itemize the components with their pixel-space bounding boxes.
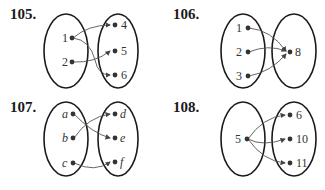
svg-text:b: b [62,131,68,145]
svg-text:2: 2 [62,55,68,69]
svg-text:c: c [62,156,68,170]
domain-ellipse [44,14,88,88]
svg-text:6: 6 [121,68,127,82]
svg-text:d: d [120,107,127,121]
svg-text:5: 5 [121,44,127,58]
svg-text:4: 4 [121,18,127,32]
diagram-106: 106. 1 2 3 8 [163,0,325,95]
mapping-diagram: 1 2 4 5 6 [0,0,162,95]
svg-text:a: a [62,107,68,121]
mapping-diagram: 5 6 10 11 [163,95,325,190]
diagram-105: 105. 1 2 4 5 6 [0,0,162,95]
mapping-diagram: 1 2 3 8 [163,0,325,95]
diagram-107: 107. a b c d e f [0,95,162,190]
svg-text:3: 3 [236,69,242,83]
svg-text:1: 1 [62,31,68,45]
mapping-diagram: a b c d e f [0,95,162,190]
svg-text:1: 1 [236,21,242,35]
diagram-108: 108. 5 6 10 11 [163,95,325,190]
svg-text:f: f [120,155,125,169]
svg-text:2: 2 [236,45,242,59]
svg-text:5: 5 [235,132,241,146]
svg-text:10: 10 [296,132,308,146]
svg-text:11: 11 [296,156,308,170]
svg-text:e: e [120,131,126,145]
svg-text:8: 8 [295,45,301,59]
svg-text:6: 6 [296,108,302,122]
